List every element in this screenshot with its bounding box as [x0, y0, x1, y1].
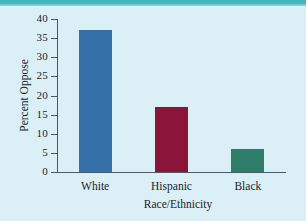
y-tick-label: 15: [37, 109, 48, 120]
y-tick-mark: [51, 153, 57, 154]
y-tick-mark: [51, 172, 57, 173]
bar-hispanic: [155, 107, 188, 172]
plot-area: 0510152025303540 WhiteHispanicBlack Race…: [0, 0, 306, 221]
bar-white: [79, 30, 112, 172]
y-tick-mark: [51, 134, 57, 135]
y-tick-label: 30: [37, 51, 48, 62]
y-axis-spine: [57, 19, 58, 173]
chart-figure: 0510152025303540 WhiteHispanicBlack Race…: [0, 0, 306, 221]
y-tick-label: 10: [37, 128, 48, 139]
y-tick-label: 0: [42, 166, 48, 177]
x-axis-title: Race/Ethnicity: [0, 198, 306, 211]
y-tick-mark: [51, 76, 57, 77]
y-axis-title: Percent Oppose: [18, 31, 31, 161]
y-tick-label: 25: [37, 70, 48, 81]
x-tick-label: Black: [188, 180, 306, 193]
y-tick-label: 5: [42, 147, 48, 158]
y-tick-label: 40: [37, 13, 48, 24]
y-tick-mark: [51, 115, 57, 116]
y-tick-label: 35: [37, 32, 48, 43]
x-axis-line: [57, 172, 286, 173]
y-tick-mark: [51, 57, 57, 58]
y-tick-mark: [51, 19, 57, 20]
bar-black: [231, 149, 264, 172]
y-tick-label: 20: [37, 90, 48, 101]
y-tick-mark: [51, 96, 57, 97]
y-tick-mark: [51, 38, 57, 39]
